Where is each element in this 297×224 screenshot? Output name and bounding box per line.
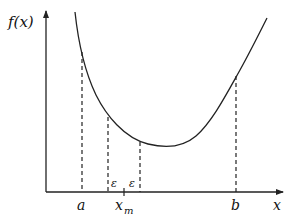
function-curve bbox=[75, 12, 267, 146]
function-diagram: f(x) ε ε a x m b x bbox=[0, 0, 297, 224]
tick-label-b: b bbox=[231, 197, 240, 213]
tick-label-xm-subscript: m bbox=[124, 205, 133, 216]
y-axis-label: f(x) bbox=[7, 13, 34, 31]
tick-label-xm: x bbox=[115, 197, 123, 213]
epsilon-right-label: ε bbox=[129, 177, 135, 190]
epsilon-left-label: ε bbox=[111, 177, 117, 190]
x-axis-label: x bbox=[273, 197, 281, 213]
tick-label-a: a bbox=[77, 197, 85, 213]
